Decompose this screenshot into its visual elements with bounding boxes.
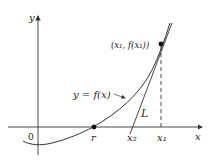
origin-label: 0 [28, 132, 34, 142]
curve-label-pointer [114, 94, 125, 98]
tangent-label: L [140, 107, 148, 120]
point-r [92, 125, 97, 130]
newton-method-diagram: y x 0 r x₂ x₁ y = f(x) (x₁, f(x₁)) L [0, 0, 209, 161]
y-axis-label: y [28, 12, 35, 23]
x-axis-label: x [195, 131, 201, 142]
tick-label-x1: x₁ [157, 132, 167, 143]
curve-label: y = f(x) [72, 89, 111, 100]
point-x1-fx1 [159, 42, 164, 47]
tick-label-x2: x₂ [127, 132, 137, 143]
point-label: (x₁, f(x₁)) [111, 40, 149, 50]
tick-label-r: r [91, 132, 97, 143]
